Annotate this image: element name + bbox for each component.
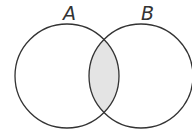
label-a: A [61,2,76,24]
venn-diagram: A B [0,0,192,129]
label-b: B [141,2,154,24]
